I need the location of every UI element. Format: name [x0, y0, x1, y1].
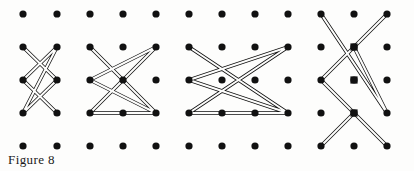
lattice-dot: [53, 10, 60, 17]
lattice-dot: [218, 10, 225, 17]
lattice-dots-layer: [19, 10, 390, 149]
lattice-dot: [317, 109, 324, 116]
lattice-dot: [350, 10, 357, 17]
figure-container: Figure 8: [0, 0, 414, 171]
lattice-dot: [119, 76, 126, 83]
lattice-dot: [119, 43, 126, 50]
lattice-dot: [86, 10, 93, 17]
lattice-dot: [152, 76, 159, 83]
lattice-dot: [218, 76, 225, 83]
node-marker: [350, 76, 357, 83]
lattice-dot: [53, 109, 60, 116]
lattice-dot: [53, 142, 60, 149]
lattice-dot: [119, 10, 126, 17]
lattice-dot: [317, 76, 324, 83]
lattice-dot: [317, 43, 324, 50]
figure-1-zigzag: [23, 47, 57, 113]
lattice-dot-edge: [383, 76, 390, 83]
lattice-dot: [53, 43, 60, 50]
lattice-dot: [152, 10, 159, 17]
lattice-dot: [218, 109, 225, 116]
lattice-dot: [185, 109, 192, 116]
lattice-dot: [19, 109, 26, 116]
node-marker: [350, 109, 357, 116]
lattice-dot: [251, 142, 258, 149]
dot-lattice-diagram: [0, 0, 414, 171]
lattice-dot-edge: [383, 142, 390, 149]
lattice-dot: [251, 76, 258, 83]
lattice-dot: [19, 76, 26, 83]
lattice-dot: [86, 43, 93, 50]
lattice-dot-edge: [383, 10, 390, 17]
lattice-dot: [185, 142, 192, 149]
lattice-dot: [317, 142, 324, 149]
lattice-dot: [86, 109, 93, 116]
lattice-dot: [251, 10, 258, 17]
lattice-dot: [284, 142, 291, 149]
polyline-bands-layer: [23, 14, 387, 146]
lattice-dot: [350, 142, 357, 149]
lattice-dot: [218, 142, 225, 149]
lattice-dot: [152, 109, 159, 116]
lattice-dot: [251, 43, 258, 50]
lattice-dot: [19, 10, 26, 17]
lattice-dot: [119, 142, 126, 149]
lattice-dot-edge: [383, 109, 390, 116]
lattice-dot: [119, 109, 126, 116]
figure-3-zigzag: [189, 47, 288, 113]
lattice-dot: [53, 76, 60, 83]
lattice-dot: [152, 43, 159, 50]
lattice-dot: [86, 76, 93, 83]
lattice-dot: [251, 109, 258, 116]
lattice-dot: [86, 142, 93, 149]
lattice-dot: [284, 43, 291, 50]
lattice-dot: [152, 142, 159, 149]
lattice-dot: [284, 109, 291, 116]
lattice-dot: [185, 43, 192, 50]
lattice-dot: [19, 43, 26, 50]
lattice-dot: [19, 142, 26, 149]
lattice-dot: [185, 10, 192, 17]
lattice-dot: [284, 10, 291, 17]
lattice-dot: [185, 76, 192, 83]
lattice-dot: [218, 43, 225, 50]
lattice-dot-edge: [383, 43, 390, 50]
lattice-dot: [317, 10, 324, 17]
lattice-dot: [284, 76, 291, 83]
figure-caption: Figure 8: [8, 152, 55, 168]
node-marker: [350, 43, 357, 50]
